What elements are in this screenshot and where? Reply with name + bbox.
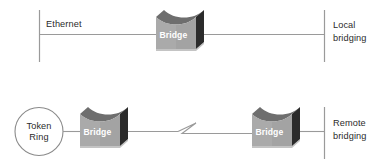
local-bridging-caption: Local bridging: [333, 20, 367, 43]
local-bridging-row: Ethernet Bridge Local bridging: [40, 10, 367, 62]
bridge-node-2-label: Bridge: [84, 127, 112, 137]
local-bridging-caption-line1: Local: [333, 20, 355, 30]
diagram-canvas: Ethernet Bridge Local bridging Token Rin…: [0, 0, 385, 163]
bridge-node-3-label: Bridge: [256, 127, 284, 137]
network-bridging-diagram: Ethernet Bridge Local bridging Token Rin…: [0, 0, 385, 163]
ethernet-label: Ethernet: [46, 19, 82, 29]
wan-break-symbol-icon: [178, 123, 200, 134]
bridge-node-2[interactable]: Bridge: [80, 107, 128, 148]
token-ring-node[interactable]: Token Ring: [15, 108, 63, 156]
token-ring-label-line2: Ring: [29, 132, 48, 142]
remote-bridging-caption-line2: bridging: [333, 131, 367, 141]
token-ring-label-line1: Token: [26, 121, 51, 131]
wan-link: [128, 123, 254, 134]
bridge-node-1[interactable]: Bridge: [156, 10, 204, 51]
bridge-node-1-label: Bridge: [160, 30, 188, 40]
local-bridging-caption-line2: bridging: [333, 33, 367, 43]
bridge-node-3[interactable]: Bridge: [252, 107, 300, 148]
remote-bridging-caption-line1: Remote: [333, 118, 366, 128]
remote-bridging-caption: Remote bridging: [333, 118, 367, 141]
remote-bridging-row: Token Ring Bridge Bridge: [15, 107, 367, 159]
